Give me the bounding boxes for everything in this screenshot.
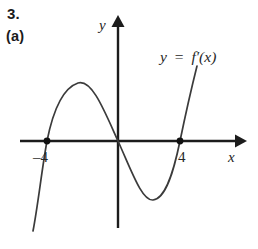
root-marker-negative-four (44, 138, 51, 145)
x-axis-label: x (227, 149, 235, 165)
x-axis-arrow-icon (235, 135, 247, 148)
derivative-graph-plot: y x –4 4 y = f′(x) (0, 0, 258, 249)
curve-equation-lhs: y (158, 48, 167, 65)
figure-container: 3. (a) y x –4 4 y = f′(x) (0, 0, 258, 249)
root-marker-positive-four (177, 138, 184, 145)
y-axis-label: y (97, 17, 106, 33)
curve-equation-label: y = f′(x) (158, 48, 216, 66)
x-tick-label-positive-four: 4 (178, 149, 186, 165)
derivative-curve (33, 66, 197, 231)
curve-equation-rhs: f′(x) (191, 48, 216, 66)
y-axis-arrow-icon (112, 15, 125, 27)
x-tick-label-negative-four: –4 (32, 149, 49, 165)
curve-equation-equals: = (175, 48, 184, 65)
